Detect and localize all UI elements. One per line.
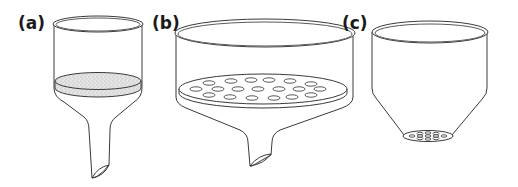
funnel-diagram: (a) (b) [0, 0, 518, 187]
funnel-b-rim-inner [178, 22, 352, 46]
funnel-a-rim-inner [56, 18, 140, 31]
frit-disc-icon [55, 73, 141, 97]
panel-label-b: (b) [152, 13, 180, 33]
panel-c: (c) [342, 13, 488, 142]
funnel-c-body [372, 32, 487, 135]
panel-b: (b) [152, 13, 355, 166]
panel-label-c: (c) [342, 13, 368, 33]
funnel-c-rim-inner [375, 24, 485, 42]
funnel-a-body [54, 24, 142, 178]
panel-a: (a) [18, 13, 143, 178]
perforated-base-icon [403, 131, 453, 142]
panel-label-a: (a) [18, 13, 45, 33]
perforated-plate-icon [179, 74, 347, 108]
